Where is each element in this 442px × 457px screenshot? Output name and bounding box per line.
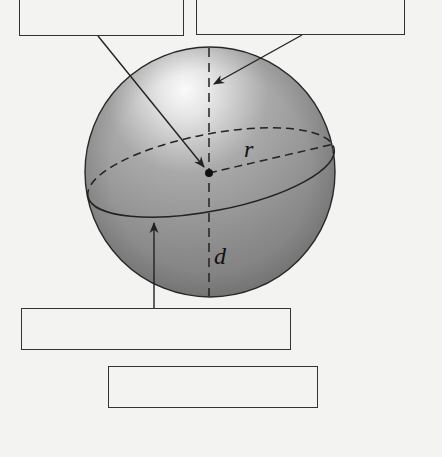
center-point (205, 169, 213, 177)
radius-label: r (244, 136, 254, 162)
sphere-diagram: r d (0, 0, 442, 457)
diameter-label: d (214, 243, 227, 269)
